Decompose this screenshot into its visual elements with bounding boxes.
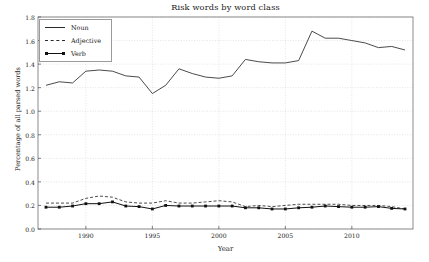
series-marker-verb xyxy=(45,206,48,209)
legend-label-adjective: Adjective xyxy=(71,37,101,45)
series-marker-verb xyxy=(151,208,154,211)
series-marker-verb xyxy=(377,205,380,208)
x-axis-label: Year xyxy=(38,245,413,253)
chart-figure: Risk words by word class Percentage of a… xyxy=(0,0,429,262)
series-marker-verb xyxy=(204,205,207,208)
series-marker-verb xyxy=(178,205,181,208)
y-tick-label: 0.8 xyxy=(5,131,35,138)
x-tick-label: 1995 xyxy=(132,232,172,239)
series-marker-verb xyxy=(284,208,287,211)
series-marker-verb xyxy=(311,206,314,209)
series-marker-verb xyxy=(58,206,61,209)
series-marker-verb xyxy=(164,204,167,207)
series-marker-verb xyxy=(324,205,327,208)
legend-label-noun: Noun xyxy=(71,24,89,32)
series-marker-verb xyxy=(84,202,87,205)
series-marker-verb xyxy=(231,205,234,208)
x-tick-label: 2010 xyxy=(332,232,372,239)
y-tick-label: 1.8 xyxy=(5,14,35,21)
y-tick-label: 1.6 xyxy=(5,37,35,44)
series-marker-verb xyxy=(138,205,141,208)
legend-label-verb: Verb xyxy=(71,50,86,58)
chart-legend: Noun Adjective Verb xyxy=(39,19,112,62)
series-marker-verb xyxy=(257,206,260,209)
series-marker-verb xyxy=(404,208,407,211)
series-marker-verb xyxy=(217,205,220,208)
y-tick-label: 0.0 xyxy=(5,226,35,233)
y-tick-label: 1.2 xyxy=(5,84,35,91)
y-tick-label: 0.4 xyxy=(5,178,35,185)
legend-item-noun[interactable]: Noun xyxy=(44,21,89,34)
x-tick-label: 2005 xyxy=(265,232,305,239)
y-axis-ticks: 0.00.20.40.60.81.01.21.41.61.8 xyxy=(2,0,35,262)
y-tick-label: 1.0 xyxy=(5,108,35,115)
series-marker-verb xyxy=(71,205,74,208)
x-tick-label: 1990 xyxy=(66,232,106,239)
y-tick-label: 0.6 xyxy=(5,155,35,162)
series-marker-verb xyxy=(98,202,101,205)
series-marker-verb xyxy=(297,206,300,209)
series-marker-verb xyxy=(111,201,114,204)
legend-item-adjective[interactable]: Adjective xyxy=(44,34,101,47)
series-marker-verb xyxy=(124,205,127,208)
series-marker-verb xyxy=(271,208,274,211)
x-tick-label: 2000 xyxy=(199,232,239,239)
legend-item-verb[interactable]: Verb xyxy=(44,47,86,60)
legend-swatch-adjective-icon xyxy=(44,36,66,45)
legend-swatch-noun-icon xyxy=(44,23,66,32)
series-marker-verb xyxy=(337,205,340,208)
series-marker-verb xyxy=(364,206,367,209)
legend-swatch-verb-icon xyxy=(44,49,66,58)
series-marker-verb xyxy=(191,205,194,208)
y-tick-label: 0.2 xyxy=(5,202,35,209)
series-marker-verb xyxy=(244,206,247,209)
series-marker-verb xyxy=(350,206,353,209)
series-marker-verb xyxy=(390,207,393,210)
y-tick-label: 1.4 xyxy=(5,61,35,68)
